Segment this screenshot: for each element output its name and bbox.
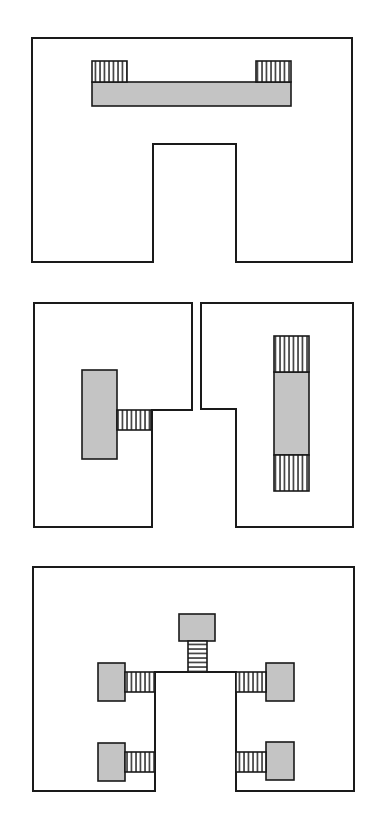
hatched-block	[256, 61, 291, 82]
hatched-block	[92, 61, 127, 82]
gray-block	[98, 663, 125, 701]
hatched-block	[236, 752, 266, 772]
hatched-block	[125, 752, 155, 772]
gray-block	[266, 742, 294, 780]
gray-block	[92, 82, 291, 106]
hatched-block	[236, 672, 266, 692]
hatched-block	[274, 336, 309, 372]
region-outline	[33, 567, 354, 791]
hatched-block	[117, 410, 151, 430]
gray-block	[98, 743, 125, 781]
gray-block	[266, 663, 294, 701]
panel-1	[32, 38, 352, 262]
gray-block	[82, 370, 117, 459]
region-outline	[32, 38, 352, 262]
hatched-block	[188, 641, 207, 672]
diagram-canvas	[0, 0, 390, 837]
hatched-block	[125, 672, 155, 692]
gray-block	[274, 372, 309, 455]
panel-3	[33, 567, 354, 791]
panel-2	[34, 303, 353, 527]
gray-block	[179, 614, 215, 641]
hatched-block	[274, 455, 309, 491]
